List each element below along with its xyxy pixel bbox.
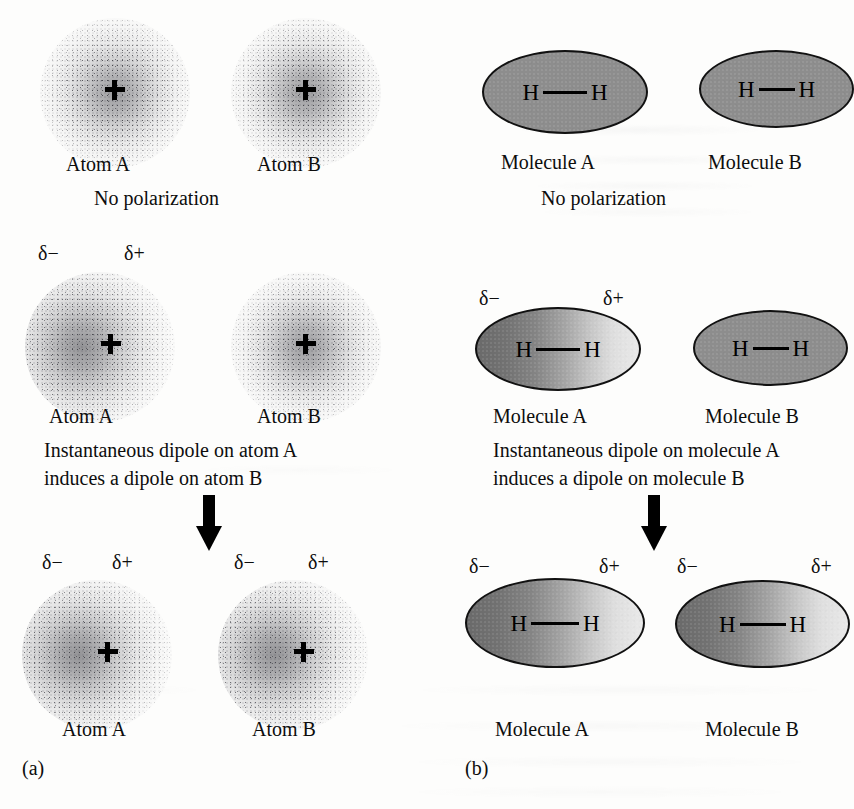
molecule-a-row1: H H bbox=[482, 50, 648, 134]
caption-induced-dipole-b-line2: induces a dipole on molecule B bbox=[493, 468, 745, 488]
nucleus-plus-icon bbox=[101, 334, 121, 354]
panel-b-letter: (b) bbox=[465, 758, 488, 778]
delta-plus-molecule-a-row2: δ+ bbox=[603, 288, 624, 308]
h-atom-right-label: H bbox=[591, 81, 608, 104]
molecule-b-label-row3: Molecule B bbox=[705, 719, 799, 739]
dispersion-forces-figure: Atom A Atom B No polarization δ− δ+ Atom… bbox=[0, 0, 854, 809]
delta-minus-molecule-a-row2: δ− bbox=[479, 288, 500, 308]
delta-minus-molecule-b-row3: δ− bbox=[677, 556, 698, 576]
atom-a-label-row3: Atom A bbox=[62, 719, 126, 739]
h-atom-left-label: H bbox=[719, 613, 736, 636]
molecule-b-label-row2: Molecule B bbox=[705, 406, 799, 426]
molecule-a-row2: H H bbox=[475, 307, 641, 391]
delta-minus-atom-a-row3: δ− bbox=[42, 552, 63, 572]
bond-line bbox=[740, 623, 786, 626]
atom-b-cloud-row2 bbox=[231, 272, 381, 422]
molecule-a-label-row1: Molecule A bbox=[501, 152, 595, 172]
delta-plus-molecule-a-row3: δ+ bbox=[599, 556, 620, 576]
h-atom-left-label: H bbox=[522, 81, 539, 104]
h-h-bond-group: H H bbox=[467, 580, 643, 666]
caption-no-polarization-a: No polarization bbox=[94, 188, 219, 208]
molecule-a-label-row3: Molecule A bbox=[495, 719, 589, 739]
h-h-bond-group: H H bbox=[477, 309, 639, 389]
h-atom-right-label: H bbox=[793, 337, 810, 360]
h-atom-right-label: H bbox=[584, 338, 601, 361]
h-atom-right-label: H bbox=[583, 612, 600, 635]
nucleus-plus-icon bbox=[294, 642, 314, 662]
atom-b-cloud-row1 bbox=[231, 18, 381, 168]
h-atom-right-label: H bbox=[790, 613, 807, 636]
caption-induced-dipole-b-line1: Instantaneous dipole on molecule A bbox=[493, 440, 780, 460]
bond-line bbox=[543, 91, 587, 94]
atom-b-cloud-row3 bbox=[218, 580, 368, 730]
atom-a-cloud-row2 bbox=[25, 272, 175, 422]
atom-b-label-row2: Atom B bbox=[257, 406, 321, 426]
down-arrow-icon-a bbox=[196, 495, 222, 551]
panel-a-atoms: Atom A Atom B No polarization δ− δ+ Atom… bbox=[0, 0, 427, 809]
h-atom-left-label: H bbox=[515, 338, 532, 361]
delta-minus-atom-a-row2: δ− bbox=[38, 243, 59, 263]
atom-b-label-row1: Atom B bbox=[257, 154, 321, 174]
molecule-b-label-row1: Molecule B bbox=[708, 152, 802, 172]
molecule-a-row3: H H bbox=[465, 578, 645, 668]
atom-b-label-row3: Atom B bbox=[252, 719, 316, 739]
caption-induced-dipole-a-line1: Instantaneous dipole on atom A bbox=[44, 440, 297, 460]
delta-plus-molecule-b-row3: δ+ bbox=[811, 556, 832, 576]
h-h-bond-group: H H bbox=[677, 582, 848, 666]
h-h-bond-group: H H bbox=[701, 52, 852, 126]
bond-line bbox=[753, 347, 789, 350]
molecule-a-label-row2: Molecule A bbox=[493, 406, 587, 426]
delta-plus-atom-b-row3: δ+ bbox=[308, 552, 329, 572]
delta-minus-atom-b-row3: δ− bbox=[234, 552, 255, 572]
molecule-b-row2: H H bbox=[693, 310, 848, 386]
atom-a-label-row2: Atom A bbox=[49, 406, 113, 426]
molecule-b-row3: H H bbox=[675, 580, 850, 668]
down-arrow-icon-b bbox=[641, 495, 667, 551]
delta-plus-atom-a-row3: δ+ bbox=[112, 552, 133, 572]
h-atom-left-label: H bbox=[510, 612, 527, 635]
h-h-bond-group: H H bbox=[695, 312, 846, 384]
bond-line bbox=[531, 622, 579, 625]
bond-line bbox=[536, 348, 580, 351]
caption-no-polarization-b: No polarization bbox=[541, 188, 666, 208]
panel-b-molecules: H H H H Molecule A Molecule B No polariz… bbox=[427, 0, 854, 809]
nucleus-plus-icon bbox=[98, 642, 118, 662]
atom-a-cloud-row3 bbox=[22, 580, 172, 730]
delta-plus-atom-a-row2: δ+ bbox=[124, 243, 145, 263]
h-atom-left-label: H bbox=[738, 78, 755, 101]
delta-minus-molecule-a-row3: δ− bbox=[469, 556, 490, 576]
nucleus-plus-icon bbox=[296, 80, 316, 100]
nucleus-plus-icon bbox=[296, 334, 316, 354]
atom-a-cloud-row1 bbox=[40, 18, 190, 168]
atom-a-label-row1: Atom A bbox=[66, 154, 130, 174]
molecule-b-row1: H H bbox=[699, 50, 854, 128]
caption-induced-dipole-a-line2: induces a dipole on atom B bbox=[44, 468, 262, 488]
h-h-bond-group: H H bbox=[484, 52, 646, 132]
bond-line bbox=[759, 88, 795, 91]
h-atom-left-label: H bbox=[732, 337, 749, 360]
panel-a-letter: (a) bbox=[22, 758, 44, 778]
nucleus-plus-icon bbox=[105, 80, 125, 100]
h-atom-right-label: H bbox=[799, 78, 816, 101]
